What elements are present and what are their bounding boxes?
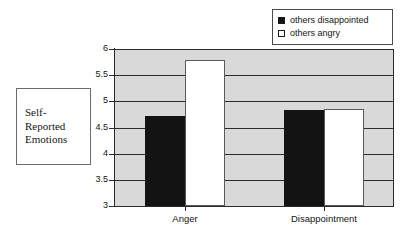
filled-square-icon — [278, 17, 285, 24]
y-axis-tick-label: 3 — [103, 200, 108, 210]
y-axis-title-label: Self- Reported Emotions — [17, 106, 67, 147]
y-axis-tick-label: 3.5 — [95, 174, 108, 184]
y-axis-tick-label: 6 — [103, 43, 108, 53]
chart-legend: others disappointed others angry — [272, 9, 393, 45]
gridline — [115, 101, 393, 102]
gridline — [115, 75, 393, 76]
y-axis-tick-label: 4 — [103, 148, 108, 158]
x-axis-tick — [185, 206, 186, 211]
bar-anger-others-angry — [185, 60, 225, 206]
y-axis-tick — [109, 154, 114, 155]
bar-anger-others-disappointed — [145, 116, 185, 206]
chart-figure: others disappointed others angry Self- R… — [0, 0, 408, 236]
y-axis-tick — [109, 101, 114, 102]
y-axis-tick-label: 4.5 — [95, 122, 108, 132]
legend-item-others-disappointed: others disappointed — [278, 14, 387, 26]
y-axis-tick — [109, 75, 114, 76]
y-axis-tick — [109, 206, 114, 207]
x-axis-category-label: Anger — [172, 213, 197, 224]
y-axis-tick-label: 5 — [103, 95, 108, 105]
y-axis-tick-labels: 33.544.555.56 — [78, 0, 108, 236]
y-axis-tick — [109, 49, 114, 50]
legend-item-label: others disappointed — [290, 15, 369, 25]
x-axis-category-label: Disappointment — [291, 213, 357, 224]
y-axis-tick — [109, 180, 114, 181]
bar-disappointment-others-angry — [324, 109, 364, 206]
legend-item-label: others angry — [290, 28, 340, 38]
x-axis-tick — [324, 206, 325, 211]
y-axis-tick-label: 5.5 — [95, 69, 108, 79]
y-axis-tick — [109, 128, 114, 129]
hollow-square-icon — [278, 30, 285, 37]
legend-item-others-angry: others angry — [278, 27, 387, 39]
bar-disappointment-others-disappointed — [284, 110, 324, 206]
